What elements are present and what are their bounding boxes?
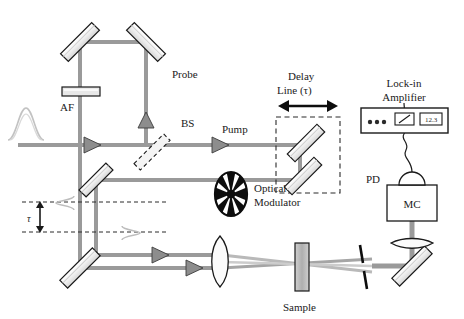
arrow-input [84,137,101,153]
lockin-display-value: 12.3 [425,116,438,124]
lockin-display: 12.3 [420,113,442,125]
arrow-probe-up [138,112,154,128]
probe-label: Probe [172,68,198,80]
beam-direction-arrows [84,112,229,276]
beam-splitter[interactable] [134,134,170,170]
lockin-knob-3[interactable] [382,120,386,124]
delay-line-arrow [278,100,338,112]
af-label: AF [60,101,74,113]
lens-collect[interactable] [391,239,433,249]
pump-label: Pump [222,123,248,135]
detector-cable [403,134,412,172]
arrow-pump-out [152,247,169,263]
input-pulse-envelope [8,108,44,140]
pd-label: PD [366,173,380,185]
lockin-label: Lock-in [387,77,422,89]
monochromator[interactable]: MC [387,185,437,221]
lens-focus[interactable] [212,236,229,287]
lockin-knob-2[interactable] [375,120,379,124]
optical-modulator[interactable] [215,172,248,216]
photodiode[interactable] [399,172,425,185]
tau-label: τ [27,213,31,224]
bs-label: BS [181,117,194,129]
lockin-knob-1[interactable] [368,120,372,124]
sample-label: Sample [283,301,316,313]
delay-line-label: Delay [288,70,315,82]
optical-setup-diagram: τ BS AF [0,0,464,319]
tau-pulse-upper [56,196,74,210]
delay-mirror-lower[interactable] [284,157,321,194]
lockin-label-2: Amplifier [382,91,426,103]
mc-label: MC [403,198,420,210]
lockin-amplifier-panel[interactable]: 12.3 [361,108,448,133]
lockin-meter [395,113,414,125]
optical-modulator-label: Optical [254,182,286,194]
tau-pulse-lower [122,226,140,240]
optical-modulator-label-2: Modulator [254,196,301,208]
af-filter[interactable] [62,87,100,96]
arrow-pump [212,137,229,153]
sample[interactable] [295,243,309,291]
delay-line-label-2: Line (τ) [277,84,312,97]
arrow-probe-out [186,260,203,276]
beam-paths [18,42,300,268]
